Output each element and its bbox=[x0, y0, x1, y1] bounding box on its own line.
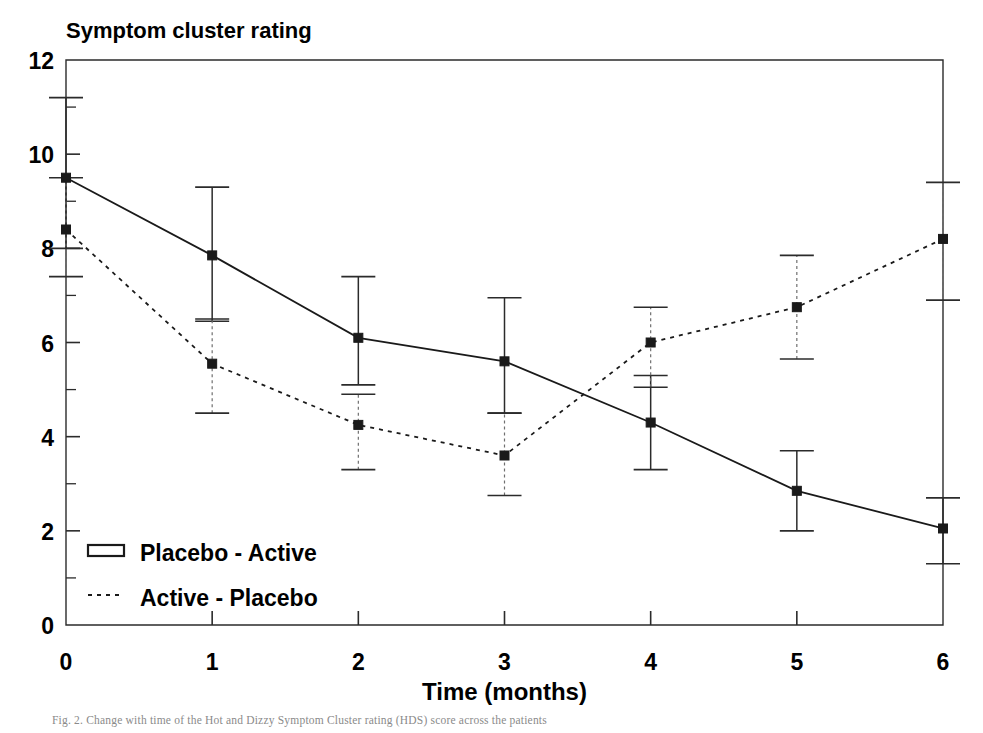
error-bar bbox=[341, 394, 375, 469]
legend-label-active-placebo: Active - Placebo bbox=[140, 585, 318, 611]
data-point-marker bbox=[500, 357, 509, 366]
y-axis-tick-label: 6 bbox=[41, 331, 54, 357]
legend-label-placebo-active: Placebo - Active bbox=[140, 540, 317, 566]
x-axis-tick-label: 2 bbox=[352, 649, 365, 675]
data-point-marker bbox=[646, 418, 655, 427]
x-axis-tick-label: 3 bbox=[498, 649, 511, 675]
x-axis-tick-label: 1 bbox=[206, 649, 219, 675]
data-point-marker bbox=[208, 359, 217, 368]
symptom-cluster-rating-chart: 0246810120123456Symptom cluster ratingTi… bbox=[0, 0, 983, 733]
x-axis-tick-label: 5 bbox=[790, 649, 803, 675]
data-point-marker bbox=[62, 173, 71, 182]
y-axis-tick-label: 2 bbox=[41, 519, 54, 545]
x-axis-tick-label: 6 bbox=[937, 649, 950, 675]
y-axis-tick-label: 12 bbox=[28, 48, 54, 74]
x-axis-tick-label: 4 bbox=[644, 649, 657, 675]
data-point-marker bbox=[646, 338, 655, 347]
data-point-marker bbox=[354, 333, 363, 342]
figure-caption: Fig. 2. Change with time of the Hot and … bbox=[52, 714, 952, 728]
data-point-marker bbox=[62, 225, 71, 234]
plot-title: Symptom cluster rating bbox=[66, 18, 312, 43]
figure-container: 0246810120123456Symptom cluster ratingTi… bbox=[0, 0, 983, 733]
data-point-marker bbox=[208, 251, 217, 260]
x-axis-tick-label: 0 bbox=[60, 649, 73, 675]
y-axis-tick-label: 8 bbox=[41, 236, 54, 262]
data-point-marker bbox=[939, 524, 948, 533]
y-axis-tick-label: 4 bbox=[41, 425, 54, 451]
y-axis-tick-label: 10 bbox=[28, 142, 54, 168]
data-point-marker bbox=[792, 303, 801, 312]
x-axis-title: Time (months) bbox=[422, 678, 587, 705]
data-point-marker bbox=[792, 486, 801, 495]
legend-swatch-placebo-active bbox=[88, 545, 124, 556]
data-point-marker bbox=[939, 234, 948, 243]
error-bar bbox=[488, 298, 522, 413]
data-point-marker bbox=[500, 451, 509, 460]
data-point-marker bbox=[354, 420, 363, 429]
legend: Placebo - ActiveActive - Placebo bbox=[88, 540, 318, 611]
y-axis-tick-label: 0 bbox=[41, 613, 54, 639]
